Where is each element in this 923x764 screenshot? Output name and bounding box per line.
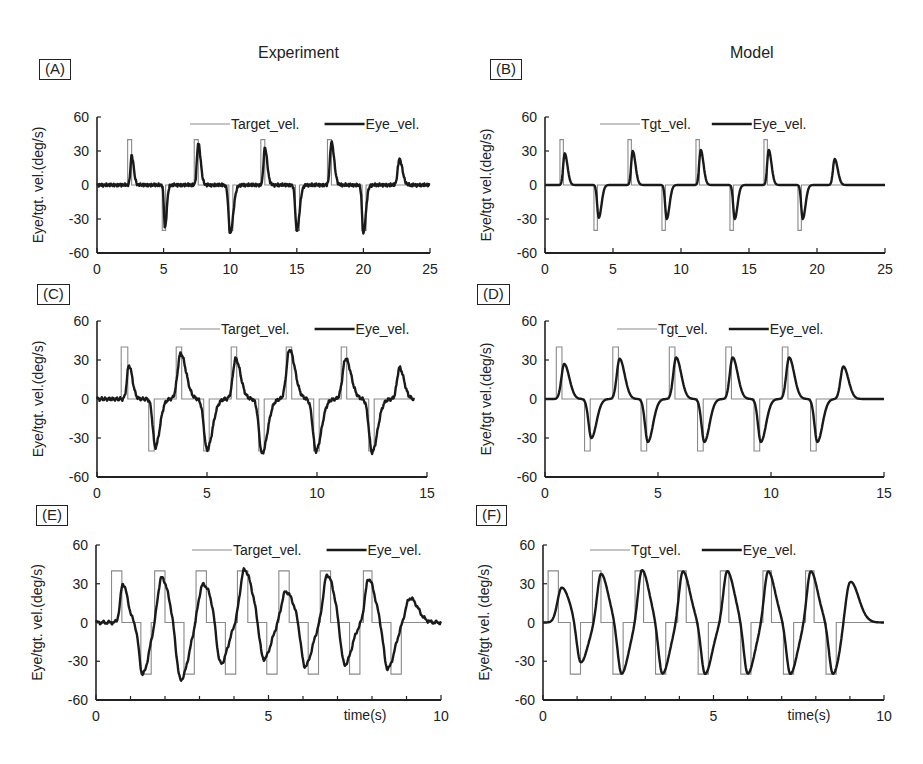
x-tick-label: 25 <box>422 261 438 277</box>
x-tick-label: 5 <box>203 485 211 501</box>
eye-velocity-line <box>97 350 414 454</box>
panel-label-e: (E) <box>36 505 68 526</box>
x-tick-label: 15 <box>419 485 435 501</box>
x-tick-label: 10 <box>673 261 689 277</box>
y-tick-label: 0 <box>80 615 88 631</box>
y-tick-label: -30 <box>69 211 89 227</box>
y-tick-label: 0 <box>81 177 89 193</box>
y-tick-label: -60 <box>69 245 89 261</box>
x-tick-label: 10 <box>763 485 779 501</box>
y-tick-label: 60 <box>73 109 89 125</box>
column-title-model: Model <box>730 44 774 62</box>
x-tick-label: 0 <box>92 708 100 724</box>
y-tick-label: -60 <box>69 469 89 485</box>
legend-label-target: Target_vel. <box>233 542 301 558</box>
panel-label-d: (D) <box>477 284 510 305</box>
y-tick-label: 30 <box>73 352 89 368</box>
x-tick-label: 10 <box>309 485 325 501</box>
x-tick-label: 5 <box>710 708 718 724</box>
x-tick-label: 0 <box>93 261 101 277</box>
x-tick-label: 25 <box>877 261 893 277</box>
column-title-experiment: Experiment <box>258 44 339 62</box>
y-tick-label: -60 <box>515 692 535 708</box>
y-tick-label: 60 <box>521 313 537 329</box>
y-tick-label: 0 <box>529 177 537 193</box>
legend-label-eye: Eye_vel. <box>770 321 824 337</box>
x-tick-label: 5 <box>609 261 617 277</box>
figure-canvas: -60-30030600510152025Eye/tgt. vel.(deg/s… <box>0 0 923 764</box>
y-tick-label: 30 <box>73 143 89 159</box>
x-tick-label: 0 <box>93 485 101 501</box>
y-tick-label: 30 <box>521 143 537 159</box>
y-tick-label: -30 <box>515 653 535 669</box>
legend-label-target: Target_vel. <box>221 321 289 337</box>
x-tick-label: 5 <box>160 261 168 277</box>
legend: Tgt_vel.Eye_vel. <box>617 321 824 337</box>
x-tick-label: 0 <box>541 261 549 277</box>
legend-label-eye: Eye_vel. <box>368 542 422 558</box>
y-tick-label: 60 <box>519 537 535 553</box>
x-axis-label: time(s) <box>344 707 387 723</box>
chart-panel-a: -60-30030600510152025Eye/tgt. vel.(deg/s… <box>30 109 438 277</box>
y-tick-label: 0 <box>529 391 537 407</box>
y-tick-label: -30 <box>69 430 89 446</box>
panel-label-b: (B) <box>490 59 522 80</box>
legend-label-eye: Eye_vel. <box>743 542 797 558</box>
legend-label-eye: Eye_vel. <box>753 116 807 132</box>
chart-panel-c: -60-3003060051015Eye/tgt. vel.(deg/s)Tar… <box>30 313 435 501</box>
x-tick-label: 15 <box>876 485 892 501</box>
eye-velocity-line <box>545 357 884 442</box>
x-tick-label: 15 <box>289 261 305 277</box>
panel-label-c: (C) <box>37 284 70 305</box>
y-axis-label: Eye/tgt vel.(deg/s) <box>478 343 494 456</box>
eye-velocity-line <box>96 568 441 680</box>
legend: Tgt_vel.Eye_vel. <box>590 542 797 558</box>
y-tick-label: -30 <box>517 430 537 446</box>
x-tick-label: 20 <box>356 261 372 277</box>
eye-velocity-line <box>97 141 430 233</box>
legend-label-eye: Eye_vel. <box>366 116 420 132</box>
y-axis-label: Eye/tgt. vel.(deg/s) <box>29 564 45 681</box>
x-tick-label: 15 <box>741 261 757 277</box>
x-axis-label: time(s) <box>788 707 831 723</box>
x-tick-label: 5 <box>654 485 662 501</box>
y-tick-label: -60 <box>517 469 537 485</box>
x-tick-label: 5 <box>265 708 273 724</box>
y-tick-label: 0 <box>81 391 89 407</box>
x-tick-label: 10 <box>433 708 449 724</box>
x-tick-label: 10 <box>222 261 238 277</box>
y-tick-label: -60 <box>517 245 537 261</box>
y-tick-label: 30 <box>519 576 535 592</box>
y-tick-label: 60 <box>73 313 89 329</box>
x-tick-label: 0 <box>539 708 547 724</box>
y-tick-label: 60 <box>72 537 88 553</box>
legend: Target_vel.Eye_vel. <box>180 321 409 337</box>
panel-label-f: (F) <box>476 505 507 526</box>
chart-panel-e: -60-30030600510Eye/tgt. vel.(deg/s)time(… <box>29 537 449 724</box>
legend: Target_vel.Eye_vel. <box>192 542 421 558</box>
chart-panel-b: -60-30030600510152025Eye/tgt vel.(deg/s)… <box>478 109 893 277</box>
y-tick-label: 60 <box>521 109 537 125</box>
y-tick-label: 30 <box>72 576 88 592</box>
legend: Target_vel.Eye_vel. <box>190 116 419 132</box>
legend-label-target: Tgt_vel. <box>658 321 708 337</box>
legend-label-target: Target_vel. <box>231 116 299 132</box>
panel-label-a: (A) <box>39 59 71 80</box>
y-tick-label: -60 <box>68 692 88 708</box>
y-tick-label: 30 <box>521 352 537 368</box>
legend-label-eye: Eye_vel. <box>356 321 410 337</box>
chart-panel-d: -60-3003060051015Eye/tgt vel.(deg/s)Tgt_… <box>478 313 892 501</box>
legend-label-target: Tgt_vel. <box>641 116 691 132</box>
legend-label-target: Tgt_vel. <box>631 542 681 558</box>
y-axis-label: Eye/tgt vel. (deg/s) <box>476 564 492 681</box>
chart-panel-f: -60-30030600510Eye/tgt vel. (deg/s)time(… <box>476 537 892 724</box>
x-tick-label: 0 <box>541 485 549 501</box>
legend: Tgt_vel.Eye_vel. <box>600 116 807 132</box>
y-tick-label: -30 <box>68 653 88 669</box>
x-tick-label: 10 <box>876 708 892 724</box>
y-axis-label: Eye/tgt. vel.(deg/s) <box>30 341 46 458</box>
y-axis-label: Eye/tgt vel.(deg/s) <box>478 129 494 242</box>
y-tick-label: -30 <box>517 211 537 227</box>
y-axis-label: Eye/tgt. vel.(deg/s) <box>30 127 46 244</box>
y-tick-label: 0 <box>527 615 535 631</box>
